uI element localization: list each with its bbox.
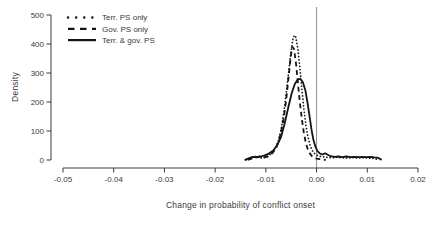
x-tick-label: 0.00 xyxy=(309,175,325,184)
x-tick-label: -0.03 xyxy=(155,175,174,184)
x-tick-label: -0.04 xyxy=(105,175,124,184)
y-tick-label: 400 xyxy=(31,40,45,49)
y-tick-label: 100 xyxy=(31,127,45,136)
y-tick-label: 500 xyxy=(31,11,45,20)
y-axis-title: Density xyxy=(10,12,20,162)
x-tick-label: -0.05 xyxy=(54,175,73,184)
y-tick-label: 200 xyxy=(31,98,45,107)
x-tick-label: -0.02 xyxy=(206,175,225,184)
series-curve-terr-ps-only xyxy=(246,35,379,160)
y-tick-label: 300 xyxy=(31,69,45,78)
legend-label: Terr. PS only xyxy=(102,13,147,22)
legend-label: Gov. PS only xyxy=(102,25,148,34)
y-tick-label: 0 xyxy=(40,156,45,165)
series-curve-terr-gov-ps xyxy=(245,79,382,160)
x-tick-label: 0.01 xyxy=(359,175,375,184)
x-tick-label: -0.01 xyxy=(257,175,276,184)
chart-canvas: -0.05-0.04-0.03-0.02-0.010.000.010.02010… xyxy=(0,0,432,225)
density-plot-figure: -0.05-0.04-0.03-0.02-0.010.000.010.02010… xyxy=(0,0,432,225)
legend-label: Terr. & gov. PS xyxy=(102,36,155,45)
x-axis-title: Change in probability of conflict onset xyxy=(63,200,418,210)
x-tick-label: 0.02 xyxy=(410,175,426,184)
